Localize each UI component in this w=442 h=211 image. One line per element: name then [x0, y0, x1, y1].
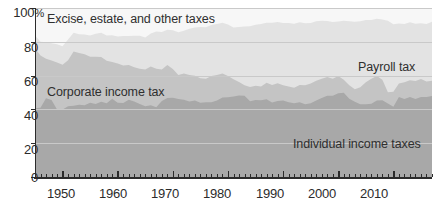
y-axis-tick-40: 40 — [24, 108, 38, 123]
x-axis-tick-2010: 2010 — [350, 186, 398, 201]
series-label-payroll-tax: Payroll tax — [358, 60, 415, 74]
stacked-area-chart: 100% 80 60 40 20 0 1950 1960 1970 1980 1… — [0, 0, 442, 211]
x-axis-tick-1990: 1990 — [246, 186, 294, 201]
area-band-individual-income-taxes — [35, 93, 432, 177]
y-axis-tick-0: 0 — [31, 170, 38, 185]
chart-plot-area — [0, 0, 442, 211]
series-label-excise-estate-other-taxes: Excise, estate, and other taxes — [47, 12, 215, 26]
x-axis-tick-2000: 2000 — [298, 186, 346, 201]
x-axis-tick-1980: 1980 — [193, 186, 241, 201]
x-axis-tick-1950: 1950 — [37, 186, 85, 201]
y-axis-tick-100: 100% — [13, 5, 44, 20]
series-label-individual-income-taxes: Individual income taxes — [293, 137, 421, 151]
x-axis-tick-1960: 1960 — [89, 186, 137, 201]
x-axis-tick-1970: 1970 — [141, 186, 189, 201]
y-axis-tick-80: 80 — [24, 40, 38, 55]
y-axis-tick-60: 60 — [24, 74, 38, 89]
y-axis-tick-20: 20 — [24, 142, 38, 157]
series-label-corporate-income-tax: Corporate income tax — [47, 85, 165, 99]
